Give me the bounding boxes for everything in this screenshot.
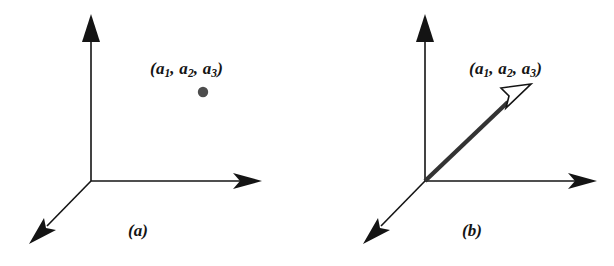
- separator-1: ,: [170, 59, 179, 78]
- component-2-base: a: [179, 59, 188, 78]
- panel-a-axes-diagram: [0, 0, 307, 266]
- z-axis-arrowhead-icon: [82, 14, 100, 42]
- vector-shaft: [425, 102, 508, 181]
- panel-b: (a1, a2, a3) (b): [307, 0, 614, 266]
- coordinate-label-b: (a1, a2, a3): [469, 60, 542, 80]
- panel-caption-b: (b): [462, 222, 482, 239]
- z-axis-arrowhead-icon: [416, 14, 434, 42]
- panel-a: (a1, a2, a3) (a): [0, 0, 307, 266]
- separator-1: ,: [489, 59, 498, 78]
- separator-2: ,: [513, 59, 522, 78]
- component-2-base: a: [498, 59, 507, 78]
- label-close-paren: ): [217, 59, 223, 78]
- point-marker: [198, 87, 208, 97]
- component-1-base: a: [156, 59, 165, 78]
- coordinate-label-a: (a1, a2, a3): [150, 60, 223, 80]
- component-1-base: a: [475, 59, 484, 78]
- x-axis-line: [47, 181, 91, 226]
- panel-b-axes-diagram: [307, 0, 614, 266]
- separator-2: ,: [194, 59, 203, 78]
- label-close-paren: ): [536, 59, 542, 78]
- panel-caption-a: (a): [128, 222, 148, 239]
- figure-container: (a1, a2, a3) (a) (a1, a2, a3) (b): [0, 0, 614, 266]
- x-axis-line: [381, 181, 425, 226]
